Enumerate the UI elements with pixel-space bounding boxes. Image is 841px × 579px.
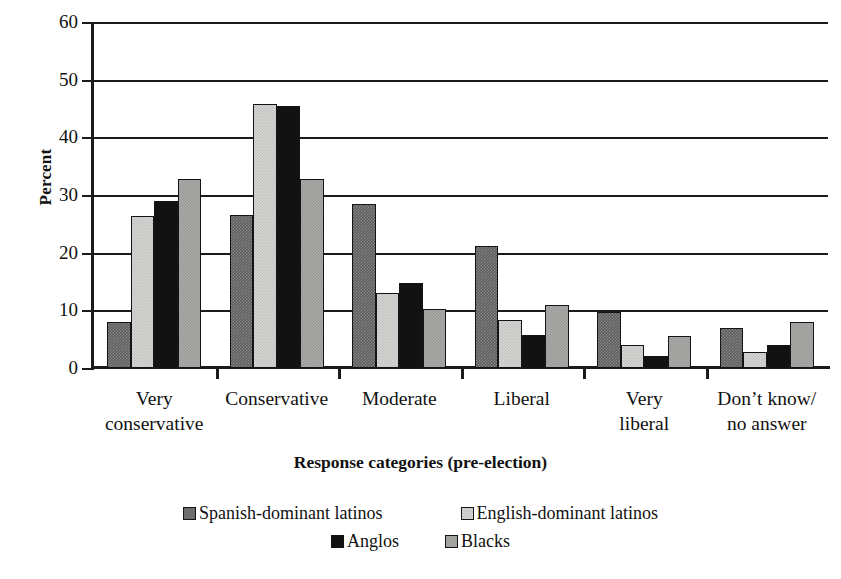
y-axis-title: Percent <box>36 117 56 237</box>
bar <box>597 312 621 369</box>
bar <box>253 104 277 368</box>
legend-label: Spanish-dominant latinos <box>199 503 383 524</box>
bar-group <box>338 22 461 368</box>
y-axis-tick-label: 20 <box>44 242 78 264</box>
x-axis-title: Response categories (pre-election) <box>0 452 841 473</box>
chart-legend: Spanish-dominant latinosEnglish-dominant… <box>0 503 841 559</box>
legend-label: Blacks <box>461 531 510 552</box>
x-axis-tick <box>216 368 219 379</box>
bar <box>475 246 499 368</box>
x-axis-category-labels: VeryconservativeConservativeModerateLibe… <box>93 386 830 444</box>
bar <box>545 305 569 368</box>
bar-group <box>461 22 584 368</box>
bar <box>154 201 178 368</box>
y-axis-tick <box>82 22 91 24</box>
bar <box>107 322 131 368</box>
x-axis-tick <box>583 368 586 379</box>
bar-chart-figure: 0102030405060 Percent VeryconservativeCo… <box>0 0 841 579</box>
y-axis-tick <box>82 195 91 197</box>
y-axis-tick <box>82 137 91 139</box>
y-axis-tick-label: 0 <box>44 357 78 379</box>
x-axis-tick <box>461 368 464 379</box>
bar <box>668 336 692 368</box>
bar <box>743 352 767 368</box>
bar <box>498 320 522 368</box>
bar <box>376 293 400 368</box>
legend-item[interactable]: English-dominant latinos <box>461 503 659 524</box>
legend-label: Anglos <box>347 531 399 552</box>
x-axis-category-label: Don’t know/no answer <box>692 386 841 436</box>
bar <box>720 328 744 368</box>
x-axis-category-label-line: no answer <box>692 411 841 436</box>
bar <box>621 345 645 368</box>
x-axis-tick <box>706 368 709 379</box>
legend-swatch-icon <box>445 535 458 548</box>
legend-swatch-icon <box>461 507 474 520</box>
bar <box>352 204 376 368</box>
y-axis-tick-label: 60 <box>44 11 78 33</box>
legend-row-2: AnglosBlacks <box>0 531 841 552</box>
legend-row-1: Spanish-dominant latinosEnglish-dominant… <box>0 503 841 524</box>
legend-item[interactable]: Spanish-dominant latinos <box>183 503 383 524</box>
bar <box>423 309 447 368</box>
bar-group <box>583 22 706 368</box>
bar <box>399 283 423 368</box>
y-axis-tick <box>82 80 91 82</box>
legend-swatch-icon <box>183 507 196 520</box>
legend-item[interactable]: Anglos <box>331 531 399 552</box>
legend-item[interactable]: Blacks <box>445 531 510 552</box>
bar <box>790 322 814 368</box>
legend-swatch-icon <box>331 535 344 548</box>
y-axis-tick <box>82 368 91 370</box>
bar <box>767 345 791 368</box>
bar-group <box>93 22 216 368</box>
bars-layer <box>93 22 830 368</box>
y-axis-tick-label: 10 <box>44 299 78 321</box>
bar-group <box>706 22 829 368</box>
bar <box>300 179 324 368</box>
y-axis-tick <box>82 310 91 312</box>
x-axis-tick <box>338 368 341 379</box>
y-axis-tick-label: 50 <box>44 69 78 91</box>
bar <box>644 356 668 368</box>
bar <box>522 335 546 368</box>
bar <box>230 215 254 368</box>
bar <box>131 216 155 368</box>
x-axis-category-label-line: Don’t know/ <box>692 386 841 411</box>
x-axis-category-label-line: conservative <box>79 411 230 436</box>
bar <box>178 179 202 368</box>
legend-label: English-dominant latinos <box>477 503 659 524</box>
y-axis-tick-labels: 0102030405060 <box>38 0 78 579</box>
bar-group <box>216 22 339 368</box>
y-axis-tick <box>82 253 91 255</box>
bar <box>277 106 301 368</box>
